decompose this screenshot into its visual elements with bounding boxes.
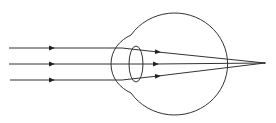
focal-point (264, 62, 266, 64)
incoming-rays (9, 48, 122, 80)
eye-ray-diagram (0, 0, 276, 123)
refracted-rays (122, 48, 265, 80)
